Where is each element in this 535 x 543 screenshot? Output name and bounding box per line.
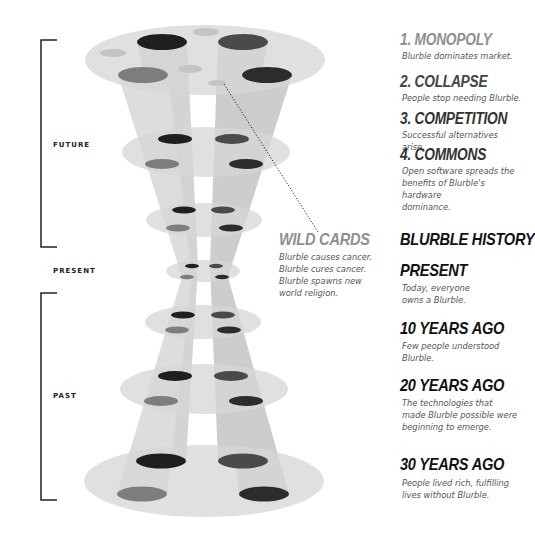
past-label: PAST: [53, 392, 77, 400]
history-present-text: Today, everyone owns a Blurble.: [402, 282, 470, 306]
disc-20-years: [120, 364, 288, 414]
scenario-title: 4. COMMONS: [400, 146, 486, 163]
history-20-years-text: The technologies that made Blurble possi…: [402, 397, 517, 433]
disc-future-near: [146, 203, 262, 237]
wild-cards-title: WILD CARDS: [279, 231, 370, 248]
future-label: FUTURE: [53, 141, 90, 149]
history-10-years-text: Few people understood Blurble.: [402, 340, 499, 364]
history-20-years-title: 20 YEARS AGO: [400, 377, 504, 394]
history-10-years-title: 10 YEARS AGO: [400, 320, 504, 337]
scenario-text: People stop needing Blurble.: [402, 92, 521, 104]
scenario-title: 2. COLLAPSE: [400, 73, 487, 90]
history-30-years-title: 30 YEARS AGO: [400, 456, 504, 473]
scenario-title: 1. MONOPOLY: [400, 31, 492, 48]
disc-30-years: [84, 445, 324, 517]
scenario-text: Open software spreads the benefits of Bl…: [402, 165, 523, 213]
wild-cards-text: Blurble causes cancer. Blurble cures can…: [279, 251, 372, 299]
disc-10-years: [145, 305, 261, 339]
history-30-years-text: People lived rich, fulfilling lives with…: [402, 477, 509, 501]
scenario-title: 3. COMPETITION: [400, 110, 507, 127]
disc-future-mid: [122, 127, 290, 177]
present-label: PRESENT: [53, 267, 96, 275]
disc-present: [166, 260, 240, 282]
history-title: BLURBLE HISTORY: [400, 231, 534, 248]
scenario-text: Blurble dominates market.: [402, 50, 513, 62]
history-present-title: PRESENT: [400, 262, 467, 279]
